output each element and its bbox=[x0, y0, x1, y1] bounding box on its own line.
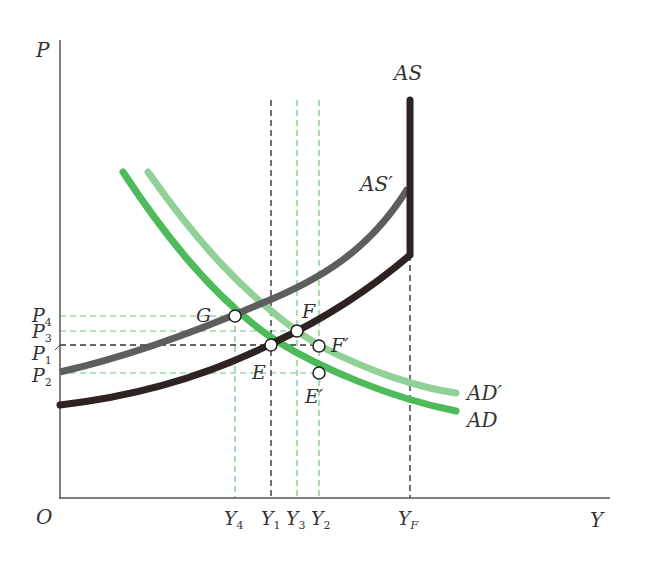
label-as-prime: AS′ bbox=[358, 172, 393, 196]
label-g: G bbox=[196, 304, 211, 326]
point-f-prime bbox=[313, 340, 325, 352]
label-ad-prime: AD′ bbox=[465, 381, 502, 405]
label-f-prime: F′ bbox=[330, 334, 349, 356]
x-axis-label: Y bbox=[590, 508, 605, 532]
point-f bbox=[291, 325, 303, 337]
label-ad: AD bbox=[465, 408, 497, 432]
output-level-labels: Y4 Y1 Y3 Y2 YF bbox=[224, 507, 419, 532]
label-y3: Y3 bbox=[286, 507, 306, 532]
label-e: E bbox=[251, 361, 266, 383]
label-p2: P2 bbox=[31, 364, 52, 389]
label-as: AS bbox=[392, 61, 422, 85]
ad-as-diagram: G F E F′ E′ AS AS′ AD′ AD P Y O P4 P3 P1… bbox=[0, 0, 654, 561]
origin-label: O bbox=[36, 505, 52, 529]
point-e-prime bbox=[313, 367, 325, 379]
label-y2: Y2 bbox=[311, 507, 331, 532]
label-y1: Y1 bbox=[261, 507, 281, 532]
label-f: F bbox=[301, 300, 316, 322]
point-g bbox=[229, 310, 241, 322]
label-y4: Y4 bbox=[224, 507, 244, 532]
label-e-prime: E′ bbox=[304, 385, 324, 407]
price-level-labels: P4 P3 P1 P2 bbox=[31, 304, 60, 389]
y-axis-label: P bbox=[35, 38, 50, 62]
label-yf: YF bbox=[398, 507, 419, 532]
point-e bbox=[265, 339, 277, 351]
